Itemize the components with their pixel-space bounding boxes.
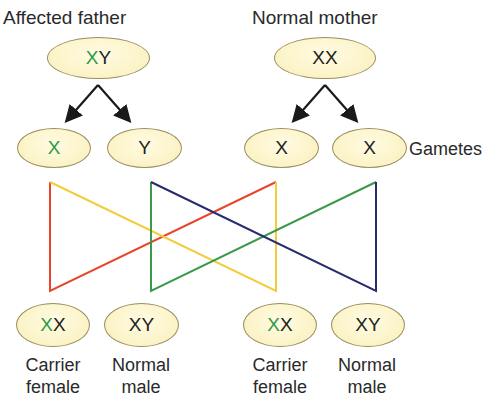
label-line: Carrier — [8, 354, 98, 376]
allele: X — [53, 314, 66, 336]
label-line: male — [322, 376, 412, 398]
affected-allele: X — [267, 314, 280, 336]
offspring-label-2: Normal male — [96, 354, 186, 398]
gamete-father-y: Y — [107, 128, 182, 168]
allele: X — [280, 314, 293, 336]
gamete-father-x: X — [17, 128, 91, 168]
allele: XY — [129, 314, 154, 336]
label-line: female — [235, 376, 325, 398]
offspring-label-1: Carrier female — [8, 354, 98, 398]
offspring-oval-1: XX — [16, 303, 90, 347]
allele: X — [275, 137, 288, 159]
label-line: Normal — [322, 354, 412, 376]
offspring-oval-4: XY — [331, 303, 405, 347]
label-line: female — [8, 376, 98, 398]
label-line: Normal — [96, 354, 186, 376]
gamete-mother-x1: X — [244, 128, 319, 168]
allele: Y — [138, 137, 151, 159]
label-line: male — [96, 376, 186, 398]
label-line: Carrier — [235, 354, 325, 376]
offspring-oval-2: XY — [104, 303, 179, 347]
allele: X — [363, 137, 376, 159]
gamete-mother-x2: X — [332, 128, 407, 168]
affected-allele: X — [40, 314, 53, 336]
affected-allele: X — [48, 137, 61, 159]
father-arrows-icon — [69, 85, 127, 118]
offspring-label-4: Normal male — [322, 354, 412, 398]
offspring-oval-3: XX — [243, 303, 317, 347]
allele: XY — [355, 314, 380, 336]
offspring-label-3: Carrier female — [235, 354, 325, 398]
mother-arrows-icon — [296, 85, 354, 118]
gametes-label: Gametes — [409, 139, 482, 160]
cross-diagram-lines — [0, 0, 504, 410]
